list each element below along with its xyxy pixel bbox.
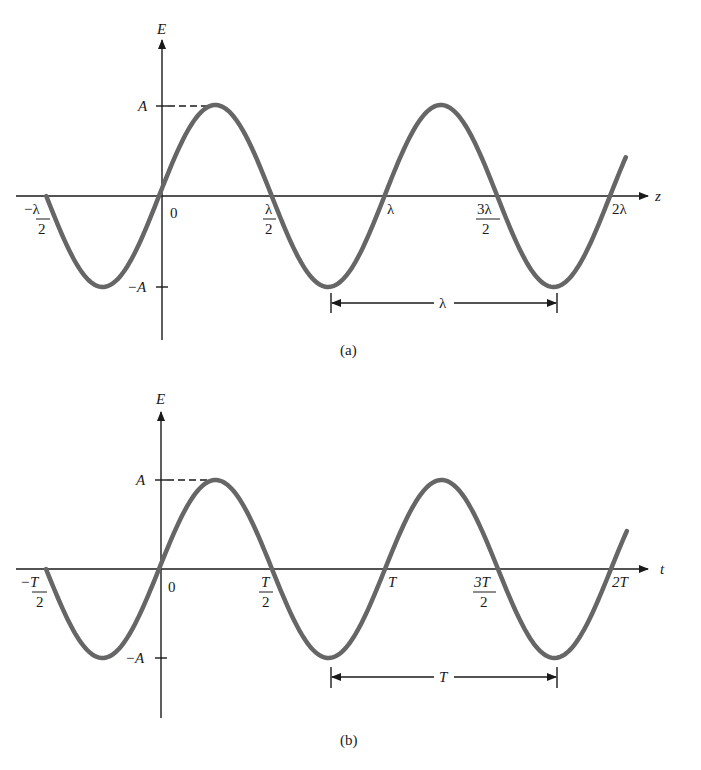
tick-label-three-halves: 3λ 2: [476, 201, 500, 237]
svg-text:T: T: [261, 574, 271, 590]
svg-text:2: 2: [38, 221, 46, 237]
svg-text:3T: 3T: [473, 574, 492, 590]
span-label: λ: [439, 295, 447, 311]
svg-text:2: 2: [36, 594, 44, 610]
caption-a: (a): [340, 342, 357, 359]
svg-text:2: 2: [480, 594, 488, 610]
sine-wave-figure: E z A −A −λ 2 0 λ 2 λ 3λ 2 2λ: [0, 0, 701, 770]
amplitude-label-pos: A: [135, 472, 146, 488]
tick-label-one: T: [388, 574, 398, 590]
y-axis-label: E: [156, 21, 166, 37]
tick-label-three-halves: 3T 2: [473, 574, 496, 610]
svg-text:−λ: −λ: [24, 201, 40, 217]
tick-label-zero: 0: [168, 579, 176, 595]
amplitude-label-neg: −A: [125, 650, 145, 666]
svg-text:2: 2: [482, 221, 490, 237]
tick-label-two: 2λ: [612, 201, 628, 217]
x-axis-label: z: [654, 188, 661, 204]
svg-text:λ: λ: [265, 201, 273, 217]
svg-text:2: 2: [262, 594, 270, 610]
tick-label-neg-half: −λ 2: [24, 201, 50, 237]
panel-b: E t A −A −T 2 0 T 2 T 3T 2 2T T (b): [16, 391, 665, 749]
caption-b: (b): [340, 732, 358, 749]
svg-text:−T: −T: [20, 574, 40, 590]
amplitude-label-pos: A: [137, 98, 148, 114]
svg-text:3λ: 3λ: [477, 201, 493, 217]
tick-label-half: T 2: [259, 574, 273, 610]
tick-label-zero: 0: [170, 205, 178, 221]
tick-label-neg-half: −T 2: [20, 574, 47, 610]
tick-label-two: 2T: [612, 574, 630, 590]
y-axis-label: E: [155, 391, 165, 407]
span-label: T: [439, 669, 449, 685]
tick-label-one: λ: [387, 201, 395, 217]
panel-a: E z A −A −λ 2 0 λ 2 λ 3λ 2 2λ: [16, 21, 661, 359]
amplitude-label-neg: −A: [127, 279, 147, 295]
x-axis-label: t: [660, 561, 665, 577]
svg-text:2: 2: [265, 221, 273, 237]
